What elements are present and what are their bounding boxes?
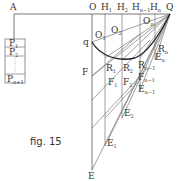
label-E2: E2 — [124, 108, 134, 119]
label-O1: O1 — [95, 30, 106, 41]
label-On: On — [143, 16, 154, 27]
funicular-diagram: A O H1 H2 Hn−1 Hn Q q F O1 O2 On R1 R2 R… — [0, 0, 179, 181]
label-R1: R1 — [106, 63, 116, 74]
label-H2: H2 — [117, 2, 128, 13]
label-Hn: Hn — [150, 2, 162, 13]
label-E: E — [88, 171, 95, 181]
label-F2: F2 — [123, 77, 132, 88]
label-Hn1: Hn−1 — [132, 2, 150, 13]
weight-label-Pn1: Pn+1 — [7, 74, 24, 85]
label-O: O — [89, 2, 96, 12]
label-Q: Q — [166, 2, 173, 12]
label-R2: R2 — [123, 63, 133, 74]
label-F: F — [82, 67, 88, 77]
figure-caption: fig. 15 — [30, 136, 62, 147]
label-O2: O2 — [111, 25, 122, 36]
label-H1: H1 — [101, 2, 112, 13]
label-q: q — [83, 37, 89, 47]
label-A: A — [9, 2, 17, 12]
label-F1: F1 — [108, 77, 117, 88]
label-E1: E1 — [107, 138, 117, 149]
label-En1: En−1 — [138, 84, 155, 95]
